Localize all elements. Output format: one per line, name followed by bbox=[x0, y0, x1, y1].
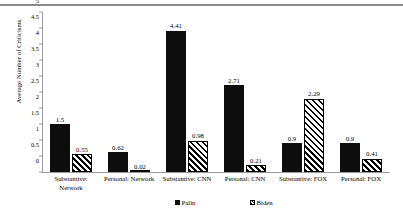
bar-value-label: 1.5 bbox=[43, 116, 77, 123]
bar-palin[interactable] bbox=[282, 143, 302, 172]
bar-palin[interactable] bbox=[340, 143, 360, 172]
chart-legend: PalinBiden bbox=[42, 199, 390, 211]
x-axis-category-labels: Substantive: NetworkPersonal: NetworkSub… bbox=[42, 175, 390, 199]
bar-chart: Average Number of Criticisms 00.511.522.… bbox=[0, 0, 403, 215]
bar-biden[interactable] bbox=[130, 170, 150, 172]
bar-value-label: 4.41 bbox=[159, 22, 193, 29]
bar-value-label: 0.41 bbox=[355, 150, 389, 157]
bar-value-label: 0.02 bbox=[123, 163, 157, 170]
bar-biden[interactable] bbox=[72, 154, 92, 172]
legend-item-label: Palin bbox=[182, 199, 196, 206]
bar-biden[interactable] bbox=[188, 141, 208, 172]
x-axis-category-label: Personal: FOX bbox=[326, 175, 396, 184]
legend-item-palin[interactable]: Palin bbox=[175, 199, 195, 206]
top-divider-rule bbox=[0, 4, 403, 6]
solid-square-icon bbox=[175, 200, 180, 205]
legend-item-biden[interactable]: Biden bbox=[250, 199, 273, 206]
bar-value-label: 2.71 bbox=[217, 77, 251, 84]
bar-group: 2.710.21 bbox=[216, 12, 274, 172]
bar-group: 4.410.98 bbox=[158, 12, 216, 172]
bar-value-label: 0.62 bbox=[101, 144, 135, 151]
bar-value-label: 0.55 bbox=[65, 146, 99, 153]
bar-value-label: 0.9 bbox=[333, 135, 367, 142]
y-axis-tick-label: 5 bbox=[36, 0, 39, 4]
y-axis-tick-marks bbox=[0, 12, 42, 172]
x-axis-line bbox=[42, 172, 390, 173]
bar-group: 0.620.02 bbox=[100, 12, 158, 172]
bar-group: 1.50.55 bbox=[42, 12, 100, 172]
bars-layer: 1.50.550.620.024.410.982.710.210.92.290.… bbox=[42, 12, 390, 172]
hatched-square-icon bbox=[250, 200, 255, 205]
legend-item-label: Biden bbox=[257, 199, 273, 206]
bar-palin[interactable] bbox=[166, 31, 186, 172]
bar-biden[interactable] bbox=[362, 159, 382, 172]
bar-value-label: 2.29 bbox=[297, 90, 331, 97]
bar-biden[interactable] bbox=[304, 99, 324, 172]
bar-biden[interactable] bbox=[246, 165, 266, 172]
bar-value-label: 0.21 bbox=[239, 157, 273, 164]
bar-group: 0.92.29 bbox=[274, 12, 332, 172]
bar-value-label: 0.98 bbox=[181, 132, 215, 139]
bar-group: 0.90.41 bbox=[332, 12, 390, 172]
